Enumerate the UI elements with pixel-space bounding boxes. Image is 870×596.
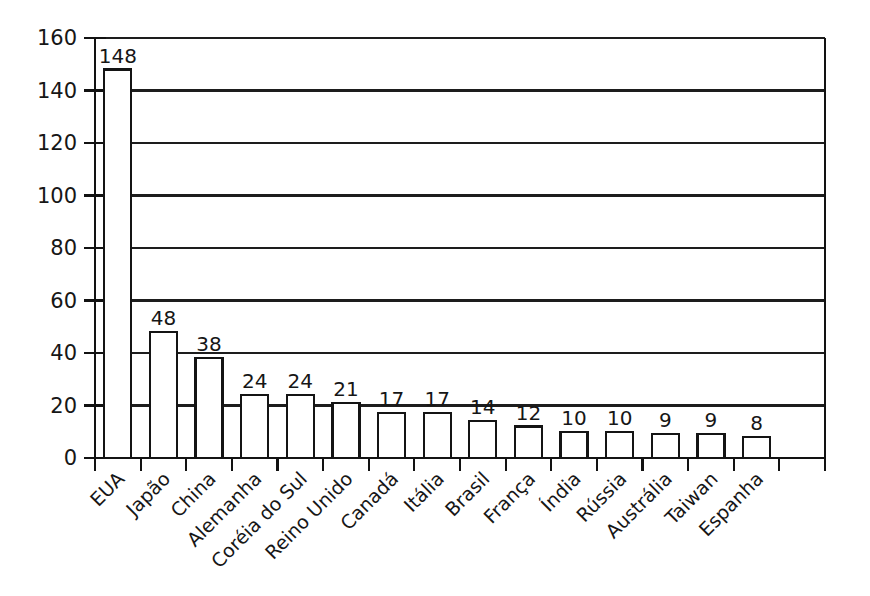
bar-value-label: 148: [99, 44, 137, 68]
bar: [697, 434, 724, 458]
y-axis-tick-label: 120: [37, 131, 77, 155]
y-axis-tick-label: 140: [37, 79, 77, 103]
bar-value-label: 38: [196, 332, 221, 356]
bar-value-label: 17: [379, 387, 404, 411]
category-label: França: [479, 467, 539, 527]
y-axis-tick-label: 80: [50, 236, 77, 260]
y-axis-tick-label: 40: [50, 341, 77, 365]
y-axis-tick-label: 60: [50, 289, 77, 313]
bar: [652, 434, 679, 458]
bar: [469, 421, 496, 458]
bar-value-label: 14: [470, 395, 495, 419]
bar: [332, 403, 359, 458]
bar: [515, 427, 542, 459]
bar-value-label: 10: [607, 406, 632, 430]
bar-value-label: 48: [151, 306, 176, 330]
bar-value-label: 21: [333, 377, 358, 401]
bar: [743, 437, 770, 458]
y-axis-tick-labels: 020406080100120140160: [37, 26, 77, 470]
bar: [241, 395, 268, 458]
bar: [104, 70, 131, 459]
bar-value-label: 24: [242, 369, 267, 393]
category-label: Itália: [399, 467, 448, 516]
bar-value-label: 10: [561, 406, 586, 430]
bar: [196, 358, 223, 458]
bar-chart: 020406080100120140160 148483824242117171…: [0, 0, 870, 596]
y-axis-tick-label: 160: [37, 26, 77, 50]
bar-value-label: 9: [659, 408, 672, 432]
chart-canvas: 020406080100120140160 148483824242117171…: [0, 0, 870, 596]
bar: [150, 332, 177, 458]
y-axis-tick-label: 20: [50, 394, 77, 418]
bar: [606, 432, 633, 458]
bar-value-label: 8: [750, 411, 763, 435]
category-label: Japão: [121, 467, 174, 520]
bar-value-label: 9: [705, 408, 718, 432]
bar: [378, 413, 405, 458]
category-labels: EUAJapãoChinaAlemanhaCoréia do SulReino …: [86, 467, 768, 572]
bar-value-label: 12: [516, 401, 541, 425]
bar-value-label: 17: [424, 387, 449, 411]
bar: [424, 413, 451, 458]
bar: [287, 395, 314, 458]
y-axis-tick-label: 0: [64, 446, 77, 470]
bar-value-label: 24: [288, 369, 313, 393]
bar: [561, 432, 588, 458]
y-axis-tick-label: 100: [37, 184, 77, 208]
